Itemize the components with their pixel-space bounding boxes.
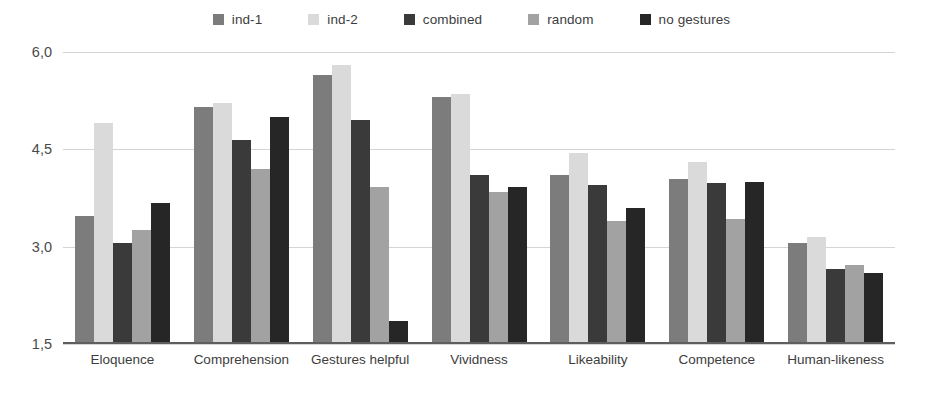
bar-group-human-likeness — [776, 52, 895, 344]
x-axis-category-labels: EloquenceComprehensionGestures helpfulVi… — [63, 352, 895, 367]
bar-random[interactable] — [726, 219, 745, 344]
y-axis-tick-label: 4,5 — [0, 141, 52, 157]
bar-ind-2[interactable] — [213, 103, 232, 344]
x-axis-label-likeability: Likeability — [538, 352, 657, 367]
bar-random[interactable] — [845, 265, 864, 344]
bar-combined[interactable] — [470, 175, 489, 344]
x-axis-line — [63, 342, 895, 344]
legend-item-ind-2[interactable]: ind-2 — [308, 12, 358, 27]
bar-random[interactable] — [489, 192, 508, 344]
y-axis-tick-label: 3,0 — [0, 239, 52, 255]
x-axis-label-gestures-helpful: Gestures helpful — [301, 352, 420, 367]
bar-ind-2[interactable] — [569, 153, 588, 344]
x-axis-label-vividness: Vividness — [420, 352, 539, 367]
bar-ind-2[interactable] — [94, 123, 113, 344]
bar-no-gestures[interactable] — [626, 208, 645, 344]
bar-ind-2[interactable] — [332, 65, 351, 344]
bar-combined[interactable] — [826, 269, 845, 344]
y-axis-tick-labels: 6,04,53,01,5 — [0, 52, 52, 344]
bar-random[interactable] — [251, 169, 270, 344]
bar-no-gestures[interactable] — [270, 117, 289, 344]
legend-item-label: combined — [423, 12, 482, 27]
bar-groups — [63, 52, 895, 344]
legend-swatch-icon — [528, 14, 539, 25]
bar-ind-1[interactable] — [788, 243, 807, 344]
bar-ind-1[interactable] — [313, 75, 332, 344]
bar-random[interactable] — [370, 187, 389, 344]
y-axis-tick-label: 6,0 — [0, 44, 52, 60]
bar-no-gestures[interactable] — [151, 203, 170, 344]
bar-ind-2[interactable] — [807, 237, 826, 344]
legend-item-no-gestures[interactable]: no gestures — [640, 12, 731, 27]
x-axis-label-human-likeness: Human-likeness — [776, 352, 895, 367]
bar-ind-1[interactable] — [194, 107, 213, 344]
plot-area — [63, 52, 895, 344]
bar-combined[interactable] — [707, 183, 726, 344]
legend-item-combined[interactable]: combined — [404, 12, 482, 27]
bar-ind-1[interactable] — [550, 175, 569, 344]
bar-group-gestures-helpful — [301, 52, 420, 344]
legend-item-label: ind-1 — [232, 12, 263, 27]
chart-legend: ind-1ind-2combinedrandomno gestures — [0, 8, 943, 30]
bar-ind-2[interactable] — [688, 162, 707, 344]
bar-group-vividness — [420, 52, 539, 344]
bar-ind-1[interactable] — [75, 216, 94, 344]
legend-item-random[interactable]: random — [528, 12, 593, 27]
legend-swatch-icon — [640, 14, 651, 25]
x-axis-label-competence: Competence — [657, 352, 776, 367]
legend-swatch-icon — [404, 14, 415, 25]
legend-swatch-icon — [213, 14, 224, 25]
bar-combined[interactable] — [232, 140, 251, 344]
bar-ind-2[interactable] — [451, 94, 470, 344]
bar-no-gestures[interactable] — [745, 182, 764, 344]
legend-item-label: no gestures — [659, 12, 731, 27]
bar-random[interactable] — [132, 230, 151, 344]
legend-item-label: random — [547, 12, 593, 27]
legend-item-label: ind-2 — [327, 12, 358, 27]
bar-group-likeability — [538, 52, 657, 344]
bar-group-eloquence — [63, 52, 182, 344]
bar-no-gestures[interactable] — [508, 187, 527, 344]
legend-swatch-icon — [308, 14, 319, 25]
bar-ind-1[interactable] — [432, 97, 451, 344]
bar-no-gestures[interactable] — [389, 321, 408, 344]
y-axis-tick-label: 1,5 — [0, 336, 52, 352]
bar-combined[interactable] — [351, 120, 370, 344]
x-axis-label-comprehension: Comprehension — [182, 352, 301, 367]
bar-ind-1[interactable] — [669, 179, 688, 344]
x-axis-label-eloquence: Eloquence — [63, 352, 182, 367]
legend-item-ind-1[interactable]: ind-1 — [213, 12, 263, 27]
bar-combined[interactable] — [113, 243, 132, 344]
bar-random[interactable] — [607, 221, 626, 344]
bar-no-gestures[interactable] — [864, 273, 883, 344]
gridline — [63, 344, 895, 345]
bar-chart: ind-1ind-2combinedrandomno gestures 6,04… — [0, 0, 943, 403]
bar-combined[interactable] — [588, 185, 607, 344]
bar-group-competence — [657, 52, 776, 344]
bar-group-comprehension — [182, 52, 301, 344]
